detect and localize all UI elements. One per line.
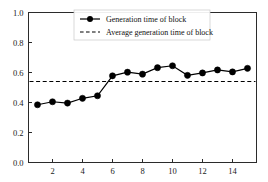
x-tick-label: 12 — [198, 166, 207, 176]
data-point-marker — [169, 63, 175, 69]
y-tick-label: 0.4 — [13, 98, 24, 108]
legend-series-label: Generation time of block — [106, 15, 186, 24]
x-tick-label: 6 — [110, 166, 114, 176]
data-point-marker — [109, 73, 115, 79]
data-point-marker — [124, 69, 130, 75]
y-tick-label: 0.0 — [13, 158, 24, 168]
x-tick-label: 8 — [140, 166, 144, 176]
x-tick-label: 4 — [80, 166, 85, 176]
x-tick-label: 2 — [50, 166, 54, 176]
y-tick-label: 0.2 — [13, 128, 24, 138]
data-point-marker — [49, 99, 55, 105]
data-point-marker — [79, 95, 85, 101]
data-point-marker — [214, 67, 220, 73]
y-tick-label: 0.6 — [13, 68, 24, 78]
y-tick-label: 0.8 — [13, 38, 24, 48]
legend-series-marker-icon — [87, 16, 93, 22]
data-point-marker — [139, 71, 145, 77]
legend-average-label: Average generation time of block — [106, 28, 213, 37]
x-axis-ticks — [53, 159, 233, 163]
y-tick-label: 1.0 — [13, 8, 24, 18]
x-axis-tick-labels: 2468101214 — [50, 166, 237, 176]
line-chart: 0.00.20.40.60.81.0 2468101214 Generation… — [0, 0, 268, 182]
x-tick-label: 14 — [228, 166, 237, 176]
data-point-marker — [64, 100, 70, 106]
data-point-marker — [34, 102, 40, 108]
data-point-marker — [94, 93, 100, 99]
data-point-marker — [244, 65, 250, 71]
data-point-marker — [154, 65, 160, 71]
generation-time-series-markers — [34, 63, 250, 108]
x-tick-label: 10 — [168, 166, 177, 176]
data-point-marker — [229, 69, 235, 75]
chart-legend: Generation time of block Average generat… — [74, 10, 213, 40]
data-point-marker — [184, 72, 190, 78]
data-point-marker — [199, 70, 205, 76]
y-axis-tick-labels: 0.00.20.40.60.81.0 — [13, 8, 24, 168]
chart-container: 0.00.20.40.60.81.0 2468101214 Generation… — [0, 0, 268, 182]
y-axis-ticks — [29, 13, 33, 163]
